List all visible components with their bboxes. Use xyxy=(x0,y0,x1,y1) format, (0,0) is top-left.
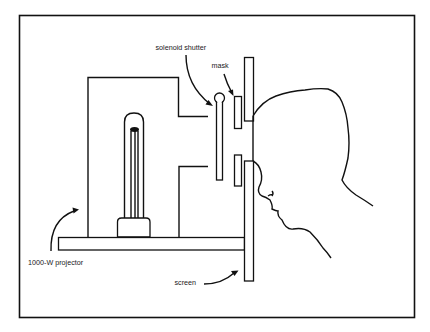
base-plate xyxy=(59,238,245,251)
label-mask: mask xyxy=(212,61,230,70)
apparatus-diagram: solenoid shutter mask 1000-W projector s… xyxy=(0,0,430,332)
screen xyxy=(245,58,254,282)
mask xyxy=(235,97,242,187)
arrow-screen xyxy=(204,273,234,284)
lamp-bulb xyxy=(118,113,151,237)
arrow-solenoid-shutter xyxy=(186,55,210,104)
label-solenoid-shutter: solenoid shutter xyxy=(156,43,207,52)
viewer-eye xyxy=(268,191,273,196)
arrow-mask xyxy=(224,74,232,93)
label-projector: 1000-W projector xyxy=(28,258,84,267)
solenoid-shutter xyxy=(215,93,225,180)
label-screen: screen xyxy=(175,278,197,287)
viewer-head xyxy=(253,89,373,258)
projector-housing xyxy=(88,78,208,238)
